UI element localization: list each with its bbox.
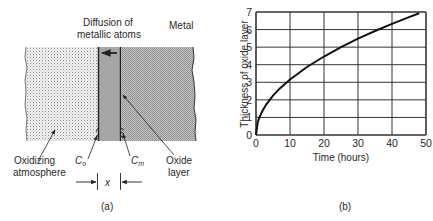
label-co: Co: [75, 155, 86, 167]
label-oxidizing-line2: atmosphere: [13, 167, 66, 178]
chart-grid: [256, 12, 426, 135]
caption-b: (b): [339, 201, 351, 212]
x-tick-label: 0: [253, 137, 259, 149]
label-oxide-line2: layer: [168, 167, 190, 178]
label-x: x: [104, 177, 111, 188]
x-tick-label: 40: [386, 137, 398, 149]
y-axis-label: Thickness of oxide layer: [239, 20, 250, 128]
panel-b-chart: 01234567 01020304050 Thickness of oxide …: [239, 6, 432, 212]
caption-a: (a): [101, 201, 113, 212]
y-tick-label: 0: [246, 129, 252, 141]
oxide-layer-region: [98, 47, 121, 141]
label-oxidizing-line1: Oxidizing: [14, 155, 55, 166]
x-axis-label: Time (hours): [313, 152, 369, 163]
x-tick-label: 30: [352, 137, 364, 149]
x-tick-label: 50: [420, 137, 432, 149]
label-diffusion-line1: Diffusion of: [83, 17, 133, 28]
figure: Diffusion of metallic atoms Metal Oxidiz…: [0, 0, 433, 221]
label-diffusion-line2: metallic atoms: [77, 29, 141, 40]
label-metal: Metal: [169, 20, 193, 31]
x-tick-label: 20: [318, 137, 330, 149]
panel-a-diagram: Diffusion of metallic atoms Metal Oxidiz…: [13, 17, 196, 212]
x-tick-label: 10: [284, 137, 296, 149]
thickness-curve: [256, 13, 419, 135]
metal-region: [121, 47, 196, 141]
label-cm: Cm: [131, 155, 144, 167]
thickness-dimension: x: [76, 173, 142, 190]
oxidizing-atmosphere-region: [25, 47, 98, 141]
x-tick-labels: 01020304050: [253, 137, 432, 149]
y-tick-label: 7: [246, 6, 252, 18]
label-oxide-line1: Oxide: [166, 155, 193, 166]
